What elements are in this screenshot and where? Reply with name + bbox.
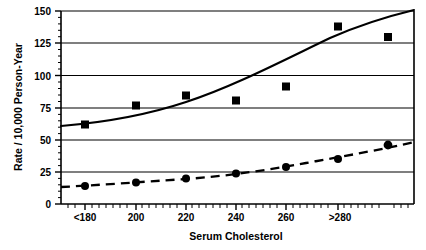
x-axis-tick-label-240: 240 xyxy=(228,212,245,223)
data-point-square xyxy=(282,83,290,91)
y-axis-tick-label-75: 75 xyxy=(40,103,52,114)
x-axis-tick-label-gt280: >280 xyxy=(329,212,352,223)
x-axis-tick-label-260: 260 xyxy=(278,212,295,223)
x-axis-title: Serum Cholesterol xyxy=(189,230,282,242)
x-axis-tick-label-lt180: <180 xyxy=(74,212,97,223)
data-point-circle xyxy=(384,141,393,150)
data-point-circle xyxy=(132,179,140,187)
y-axis-tick-label-0: 0 xyxy=(45,199,51,210)
data-point-circle xyxy=(334,155,342,163)
y-axis-tick-label-150: 150 xyxy=(34,6,51,17)
x-axis-tick-label-220: 220 xyxy=(178,212,195,223)
data-point-square xyxy=(81,121,89,129)
data-point-square xyxy=(334,23,342,31)
y-axis-tick-label-125: 125 xyxy=(34,38,51,49)
data-point-circle xyxy=(282,163,290,171)
y-axis-major-ticks xyxy=(55,11,61,204)
data-point-circle xyxy=(232,170,240,178)
chart-figure: 150 125 100 75 50 25 0 <180 200 220 240 … xyxy=(0,0,426,250)
data-point-circle xyxy=(81,182,89,190)
y-axis-tick-label-100: 100 xyxy=(34,71,51,82)
x-axis-tick-label-200: 200 xyxy=(128,212,145,223)
y-axis-tick-label-50: 50 xyxy=(40,135,52,146)
data-point-square xyxy=(384,33,392,41)
serum-cholesterol-rate-chart: 150 125 100 75 50 25 0 <180 200 220 240 … xyxy=(0,0,426,250)
data-point-square xyxy=(132,102,140,110)
data-point-square xyxy=(182,92,190,100)
y-axis-title: Rate / 10,000 Person-Year xyxy=(12,43,24,171)
data-point-circle xyxy=(182,175,190,183)
y-axis-tick-label-25: 25 xyxy=(40,167,52,178)
data-point-square xyxy=(232,97,240,105)
